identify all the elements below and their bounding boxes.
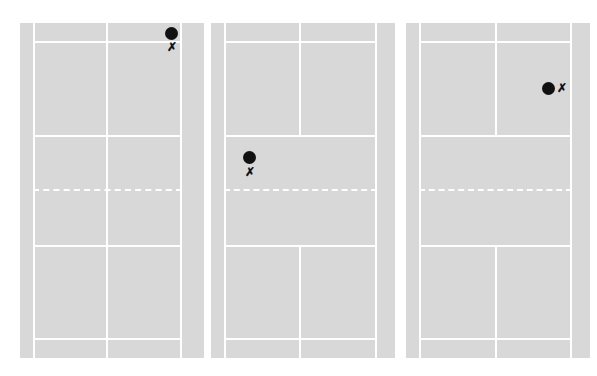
dot-marker [542,82,555,95]
dot-marker [243,151,256,164]
short-service-line-top [33,135,182,137]
center-line-bottom [106,245,108,358]
center-line-top [299,23,301,135]
dot-marker [165,27,178,40]
court-2: ✗ [211,23,395,358]
center-line-bottom [495,245,497,358]
x-marker: ✗ [557,82,567,94]
net-line [33,189,182,191]
center-line-top [106,23,108,135]
center-line-top [495,23,497,135]
net-line [419,189,572,191]
net-line [224,189,377,191]
short-service-line-top [419,135,572,137]
center-line-bottom [299,245,301,358]
x-marker: ✗ [245,166,255,178]
court-1: ✗ [20,23,204,358]
short-service-line-top [224,135,377,137]
x-marker: ✗ [167,41,177,53]
court-3: ✗ [406,23,590,358]
